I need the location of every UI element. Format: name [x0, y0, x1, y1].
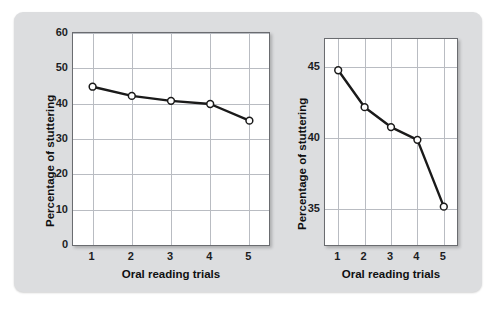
right-plot-area [324, 38, 458, 246]
x-tick-label: 2 [361, 250, 367, 262]
data-point-marker [414, 136, 421, 143]
data-line [338, 70, 444, 206]
y-tick-label: 10 [56, 203, 68, 215]
left-data-series [73, 33, 270, 246]
right-data-series [325, 39, 458, 246]
y-tick-label: 60 [56, 26, 68, 38]
x-tick-label: 1 [334, 250, 340, 262]
x-tick-label: 1 [89, 250, 95, 262]
x-tick-label: 5 [245, 250, 251, 262]
data-point-marker [128, 92, 135, 99]
y-tick-label: 45 [308, 60, 320, 72]
y-tick-label: 40 [308, 131, 320, 143]
y-tick-label: 50 [56, 61, 68, 73]
data-point-marker [361, 104, 368, 111]
data-point-marker [246, 117, 253, 124]
right-y-axis-label: Percentage of stuttering [296, 98, 308, 230]
data-point-marker [440, 203, 447, 210]
left-x-axis-label: Oral reading trials [72, 268, 270, 280]
y-tick-label: 0 [62, 238, 68, 250]
data-point-marker [207, 101, 214, 108]
x-tick-label: 4 [413, 250, 419, 262]
x-tick-label: 3 [167, 250, 173, 262]
data-point-marker [168, 97, 175, 104]
y-tick-label: 35 [308, 202, 320, 214]
y-tick-label: 30 [56, 132, 68, 144]
figure-panel: Percentage of stuttering 0102030405060 1… [14, 12, 482, 292]
data-point-marker [388, 124, 395, 131]
left-plot-area [72, 32, 270, 246]
data-point-marker [89, 83, 96, 90]
left-y-axis-label: Percentage of stuttering [44, 95, 56, 227]
x-tick-label: 3 [387, 250, 393, 262]
data-point-marker [335, 67, 342, 74]
x-tick-label: 4 [206, 250, 212, 262]
x-tick-label: 5 [440, 250, 446, 262]
y-tick-label: 40 [56, 97, 68, 109]
right-x-axis-label: Oral reading trials [316, 268, 466, 280]
x-tick-label: 2 [128, 250, 134, 262]
right-chart: Percentage of stuttering 354045 12345 Or… [276, 12, 482, 292]
gridline-horizontal [73, 245, 269, 246]
left-chart: Percentage of stuttering 0102030405060 1… [14, 12, 276, 292]
y-tick-label: 20 [56, 167, 68, 179]
